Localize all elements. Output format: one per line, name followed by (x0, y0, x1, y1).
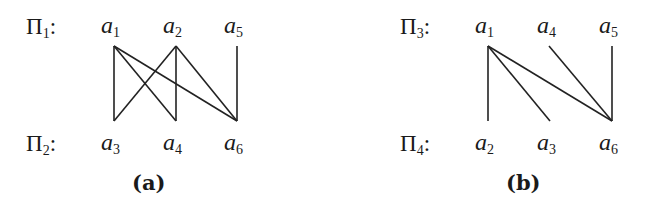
node-a6: a6 (224, 131, 243, 161)
node-a1: a1 (475, 14, 494, 44)
edge-a2-a6 (176, 46, 237, 121)
partition-label-pi1: Π1: (26, 16, 56, 45)
node-a4: a4 (537, 14, 556, 44)
node-a5: a5 (224, 14, 243, 44)
node-a4: a4 (163, 131, 182, 161)
caption-b: (b) (506, 170, 541, 195)
node-a2: a2 (475, 131, 494, 161)
edge-a4-a6 (549, 46, 612, 121)
node-a2: a2 (163, 14, 182, 44)
edge-a1-a3 (488, 46, 550, 121)
caption-a: (a) (132, 170, 165, 195)
node-a1: a1 (101, 14, 120, 44)
partition-label-pi2: Π2: (26, 133, 56, 162)
node-a3: a3 (537, 131, 556, 161)
node-a3: a3 (101, 131, 120, 161)
edge-a1-a6 (488, 46, 612, 121)
node-a6: a6 (599, 131, 618, 161)
partition-label-pi4: Π4: (400, 133, 430, 162)
partition-label-pi3: Π3: (400, 16, 430, 45)
node-a5: a5 (599, 14, 618, 44)
